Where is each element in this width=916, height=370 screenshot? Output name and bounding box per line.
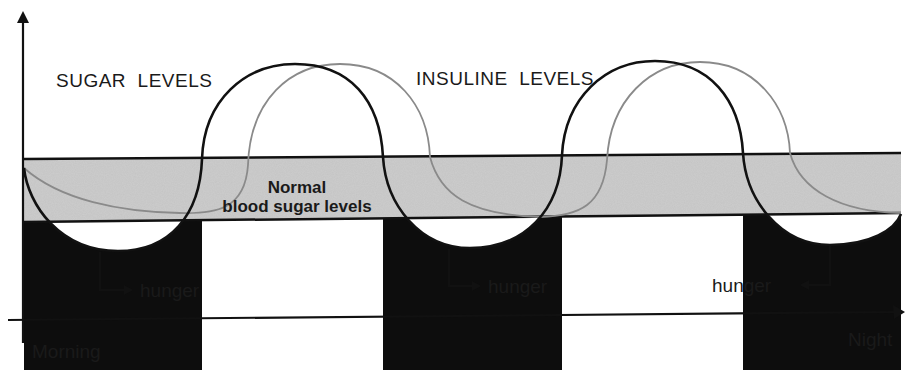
sugar-levels-label: SUGAR LEVELS (56, 70, 212, 91)
insuline-levels-label: INSULINE LEVELS (416, 68, 594, 89)
x-axis-end-label: Night (848, 329, 893, 350)
x-axis-start-label: Morning (32, 341, 101, 362)
hunger-label-3: hunger (712, 275, 772, 296)
blood-sugar-insulin-diagram: SUGAR LEVELS INSULINE LEVELS Normal bloo… (0, 0, 916, 370)
hunger-label-1: hunger (140, 280, 200, 301)
hunger-label-2: hunger (488, 276, 548, 297)
normal-range-label-line1: Normal (268, 178, 327, 197)
normal-range-label-line2: blood sugar levels (222, 197, 371, 216)
y-axis-arrow-icon (17, 11, 29, 23)
